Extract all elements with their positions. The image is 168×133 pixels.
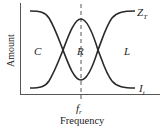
region-l-label: L (123, 45, 130, 57)
resonance-frequency-label: fr (76, 102, 82, 116)
region-c-label: C (34, 45, 42, 57)
y-axis-label: Amount (5, 34, 16, 67)
region-r-label: R (76, 45, 84, 57)
x-axis-label: Frequency (60, 115, 105, 126)
z-t-label: ZT (137, 6, 148, 21)
resonance-diagram: ZT It C R L Amount fr Frequency (0, 0, 168, 133)
